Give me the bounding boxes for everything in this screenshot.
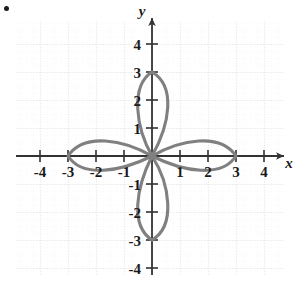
x-tick-label: 3 — [232, 164, 240, 180]
x-tick-label: 4 — [260, 164, 268, 180]
x-axis-label: x — [284, 155, 293, 171]
x-tick-label: -3 — [62, 164, 75, 180]
y-tick-label: -4 — [129, 261, 142, 277]
y-tick-label: 4 — [134, 37, 142, 53]
y-tick-label: -1 — [129, 177, 142, 193]
y-tick-label: -2 — [129, 205, 142, 221]
bullet-marker — [4, 6, 9, 11]
x-tick-label: -2 — [90, 164, 103, 180]
x-tick-label: -4 — [34, 164, 47, 180]
y-tick-label: 3 — [134, 65, 142, 81]
y-axis-label: y — [137, 3, 146, 19]
graph-figure: -4 -3 -2 -1 1 2 3 4 4 3 2 1 -1 -2 -3 -4 … — [0, 0, 302, 285]
x-tick-label: 2 — [204, 164, 212, 180]
y-tick-label: -3 — [129, 233, 142, 249]
coordinate-plane-svg: -4 -3 -2 -1 1 2 3 4 4 3 2 1 -1 -2 -3 -4 … — [0, 0, 302, 285]
y-tick-label: 1 — [134, 121, 142, 137]
y-tick-label: 2 — [134, 93, 142, 109]
x-tick-label: 1 — [176, 164, 184, 180]
